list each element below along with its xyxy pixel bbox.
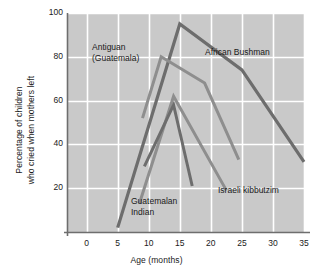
series-label: Antiguan(Guatemala) <box>92 42 139 64</box>
series-label-line: Israeli kibbutzim <box>218 185 279 196</box>
series-label-line: Antiguan <box>92 42 139 53</box>
x-tick-label: 15 <box>170 238 190 248</box>
y-tick-label: 40 <box>37 138 63 148</box>
x-tick-label: 10 <box>139 238 159 248</box>
line-chart: 20406080100 05101520253035 Antiguan(Guat… <box>0 0 313 275</box>
y-tick-label: 80 <box>37 51 63 61</box>
x-tick-label: 0 <box>77 238 97 248</box>
y-tick-label: 60 <box>37 95 63 105</box>
x-tick-label: 25 <box>232 238 252 248</box>
y-axis-title: Percentage of children who cried when mo… <box>13 35 37 225</box>
x-tick-label: 20 <box>201 238 221 248</box>
x-axis-title: Age (months) <box>0 255 313 265</box>
series-label-line: Guatemalan <box>131 196 177 207</box>
series-label-line: African Bushman <box>205 47 270 58</box>
series-label: GuatemalanIndian <box>131 196 177 218</box>
y-tick-label: 100 <box>37 7 63 17</box>
series-label-line: Indian <box>131 207 177 218</box>
x-tick-label: 35 <box>294 238 313 248</box>
y-axis-title-line1: Percentage of children <box>13 35 25 225</box>
y-axis-title-line2: who cried when mothers left <box>25 35 37 225</box>
series-label: Israeli kibbutzim <box>218 185 279 196</box>
series-label-line: (Guatemala) <box>92 53 139 64</box>
x-tick-label: 5 <box>108 238 128 248</box>
y-tick-label: 20 <box>37 182 63 192</box>
series-label: African Bushman <box>205 47 270 58</box>
x-tick-label: 30 <box>263 238 283 248</box>
